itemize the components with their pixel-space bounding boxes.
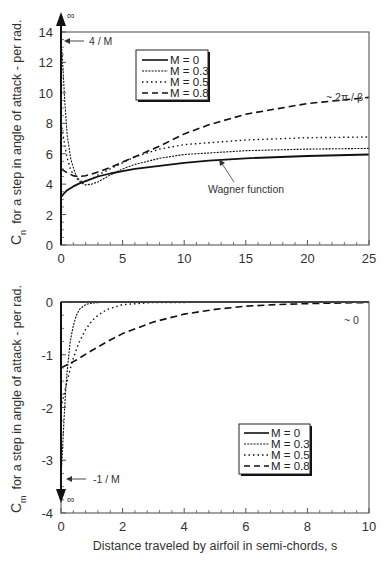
bottom-infinity-arrow-head xyxy=(56,489,66,503)
top-series-lines xyxy=(61,43,369,198)
top-y-tick-label: 8 xyxy=(46,116,53,131)
top-chart-panel: 0510152025 02468101214 Cnfor a step in a… xyxy=(8,9,376,266)
bottom-x-axis: 0246810 xyxy=(57,508,376,534)
bottom-legend-m08: M = 0.8 xyxy=(271,460,310,472)
top-y-tick-label: 6 xyxy=(46,147,53,162)
bottom-x-axis-title: Distance traveled by airfoil in semi-cho… xyxy=(93,539,338,553)
top-infinity-label: ∞ xyxy=(67,9,75,21)
top-x-tick-label: 5 xyxy=(119,251,126,266)
bottom-asymptote-label: ~ 0 xyxy=(344,314,359,326)
top-series-3 xyxy=(61,97,369,176)
top-plot-frame xyxy=(61,32,369,245)
top-y-tick-label: 12 xyxy=(39,55,53,70)
bottom-series-2 xyxy=(61,302,369,408)
top-x-tick-label: 10 xyxy=(177,251,191,266)
bottom-y-tick-label: -4 xyxy=(41,506,53,521)
bottom-ylabel-main: C xyxy=(8,503,24,513)
top-ylabel-sub: n xyxy=(18,230,28,235)
top-series-1 xyxy=(61,43,369,185)
initial-value-pointer-head xyxy=(64,38,70,44)
bottom-x-tick-label: 4 xyxy=(181,519,188,534)
bottom-y-tick-label: 0 xyxy=(46,295,53,310)
top-y-tick-label: 2 xyxy=(46,208,53,223)
bottom-series-3 xyxy=(61,303,369,368)
bottom-initial-label: -1 / M xyxy=(93,473,120,485)
wagner-pointer xyxy=(221,162,234,182)
top-ylabel-main: C xyxy=(8,235,24,245)
top-legend-m08: M = 0.8 xyxy=(170,87,209,99)
chart-canvas: 0510152025 02468101214 Cnfor a step in a… xyxy=(0,0,391,565)
bottom-x-tick-label: 6 xyxy=(242,519,249,534)
bottom-series-1 xyxy=(61,302,369,478)
bottom-legend: M = 0 M = 0.3 M = 0.5 M = 0.8 xyxy=(239,424,312,476)
bottom-y-axis: -4-3-2-10 xyxy=(41,295,66,521)
top-x-tick-label: 15 xyxy=(239,251,253,266)
top-x-tick-label: 20 xyxy=(300,251,314,266)
top-y-tick-label: 4 xyxy=(46,177,53,192)
top-x-tick-label: 25 xyxy=(362,251,376,266)
top-infinity-arrow-head xyxy=(56,12,66,26)
top-y-tick-label: 10 xyxy=(39,86,53,101)
top-x-axis: 0510152025 xyxy=(57,240,376,266)
wagner-label: Wagner function xyxy=(208,183,284,195)
bottom-y-axis-title: Cmfor a step in angle of attack - per ra… xyxy=(8,285,28,513)
top-y-tick-label: 0 xyxy=(46,238,53,253)
bottom-initial-pointer-head xyxy=(66,476,72,482)
top-x-tick-label: 0 xyxy=(57,251,64,266)
top-y-tick-label: 14 xyxy=(39,25,53,40)
bottom-x-tick-label: 10 xyxy=(362,519,376,534)
top-legend: M = 0 M = 0.3 M = 0.5 M = 0.8 xyxy=(136,50,210,102)
bottom-x-tick-label: 2 xyxy=(119,519,126,534)
bottom-y-tick-label: -2 xyxy=(41,401,53,416)
bottom-infinity-label: ∞ xyxy=(67,493,75,505)
bottom-series-lines xyxy=(61,302,369,478)
bottom-chart-panel: 0246810 -4-3-2-10 Cmfor a step in angle … xyxy=(8,285,376,553)
bottom-x-tick-label: 8 xyxy=(304,519,311,534)
bottom-ylabel-rest: for a step in angle of attack - per rad. xyxy=(10,285,24,489)
bottom-y-tick-label: -3 xyxy=(41,453,53,468)
bottom-y-tick-label: -1 xyxy=(41,348,53,363)
initial-value-label: 4 / M xyxy=(89,35,112,47)
bottom-x-tick-label: 0 xyxy=(57,519,64,534)
asymptote-label: ~ 2π / β xyxy=(326,91,363,103)
top-ylabel-rest: for a step in angle of attack - per rad. xyxy=(10,20,24,224)
top-y-axis-title: Cnfor a step in angle of attack - per ra… xyxy=(8,20,28,245)
bottom-ylabel-sub: m xyxy=(18,495,28,503)
